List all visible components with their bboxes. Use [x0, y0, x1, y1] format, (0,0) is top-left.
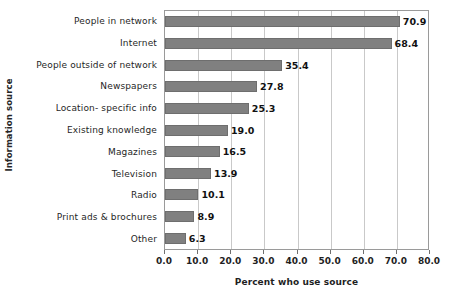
x-axis-tick-mark — [396, 250, 397, 254]
category-label: Magazines — [18, 141, 161, 163]
y-axis-title-text: Information source — [4, 78, 14, 171]
bar-value-label: 8.9 — [197, 211, 214, 222]
category-label: Television — [18, 163, 161, 185]
bar-row: 35.4 — [165, 54, 428, 76]
bar — [165, 60, 282, 71]
bar-row: 25.3 — [165, 98, 428, 120]
x-axis-tick-label: 50.0 — [319, 256, 341, 266]
bar-value-label: 13.9 — [214, 168, 237, 179]
x-axis-tick-mark — [363, 250, 364, 254]
x-axis-tick-label: 80.0 — [418, 256, 440, 266]
x-axis-tick-mark — [263, 250, 264, 254]
bar — [165, 168, 211, 179]
bar — [165, 146, 220, 157]
bar-value-label: 25.3 — [252, 103, 275, 114]
bar-value-label: 70.9 — [403, 16, 426, 27]
x-axis-tick-label: 70.0 — [385, 256, 407, 266]
bar — [165, 103, 249, 114]
bar-row: 70.9 — [165, 11, 428, 33]
x-axis-tick-mark — [330, 250, 331, 254]
bar-value-label: 16.5 — [223, 146, 246, 157]
category-label: Newspapers — [18, 75, 161, 97]
bar-value-label: 6.3 — [189, 233, 206, 244]
bar — [165, 189, 198, 200]
bar-value-label: 10.1 — [201, 189, 224, 200]
bar-row: 16.5 — [165, 141, 428, 163]
category-label: Internet — [18, 32, 161, 54]
bar — [165, 211, 194, 222]
x-axis-tick-label: 0.0 — [156, 256, 172, 266]
y-axis-title: Information source — [0, 0, 18, 250]
bar-value-label: 35.4 — [285, 60, 308, 71]
x-axis-tick-label: 20.0 — [219, 256, 241, 266]
category-label: People in network — [18, 10, 161, 32]
bar-row: 68.4 — [165, 33, 428, 55]
bar-chart: Information source People in networkInte… — [0, 0, 451, 302]
x-axis-tick-label: 60.0 — [352, 256, 374, 266]
bar-row: 6.3 — [165, 227, 428, 249]
bar-row: 27.8 — [165, 76, 428, 98]
bar-value-label: 27.8 — [260, 81, 283, 92]
bar — [165, 125, 228, 136]
x-axis-tick-label: 30.0 — [252, 256, 274, 266]
category-axis-labels: People in networkInternetPeople outside … — [18, 10, 161, 250]
x-axis-tick-label: 10.0 — [186, 256, 208, 266]
bar-value-label: 19.0 — [231, 125, 254, 136]
bar — [165, 81, 257, 92]
x-axis-tick-marks — [164, 250, 429, 255]
bar — [165, 16, 400, 27]
x-axis-tick-mark — [164, 250, 165, 254]
x-axis-tick-labels: 0.010.020.030.040.050.060.070.080.0 — [164, 256, 429, 270]
category-label: Print ads & brochures — [18, 206, 161, 228]
bar-value-label: 68.4 — [395, 38, 418, 49]
x-axis-tick-mark — [297, 250, 298, 254]
category-label: Radio — [18, 185, 161, 207]
bar-row: 8.9 — [165, 206, 428, 228]
bar — [165, 38, 392, 49]
bar — [165, 233, 186, 244]
x-axis-tick-label: 40.0 — [285, 256, 307, 266]
bar-row: 13.9 — [165, 162, 428, 184]
x-axis-tick-mark — [197, 250, 198, 254]
category-label: People outside of network — [18, 54, 161, 76]
x-axis-tick-mark — [230, 250, 231, 254]
category-label: Other — [18, 228, 161, 250]
bar-row: 10.1 — [165, 184, 428, 206]
plot-area: 70.968.435.427.825.319.016.513.910.18.96… — [164, 10, 429, 250]
x-axis-title: Percent who use source — [164, 277, 429, 287]
bar-row: 19.0 — [165, 119, 428, 141]
x-axis-tick-mark — [429, 250, 430, 254]
category-label: Existing knowledge — [18, 119, 161, 141]
category-label: Location- specific info — [18, 97, 161, 119]
bar-series: 70.968.435.427.825.319.016.513.910.18.96… — [165, 11, 428, 249]
